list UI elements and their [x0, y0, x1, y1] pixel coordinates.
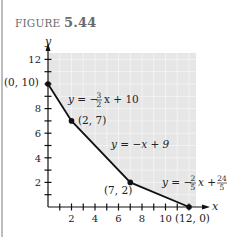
- svg-text:y = −: y = −: [161, 176, 192, 188]
- y-tick-label: 2: [35, 177, 41, 188]
- x-tick-label: 2: [68, 213, 74, 224]
- chart: y x 2 4 6 8 10 2 4 6 8 12 (0, 10) (2, 7)…: [0, 0, 233, 237]
- x-tick-label: 8: [139, 213, 145, 224]
- svg-text:x + 10: x + 10: [104, 93, 139, 105]
- y-tick-label: 12: [28, 54, 41, 65]
- y-axis-label: y: [44, 35, 52, 48]
- svg-text:x +: x +: [198, 176, 216, 188]
- point-label-0-10: (0, 10): [4, 76, 39, 88]
- y-tick-label: 6: [35, 128, 41, 139]
- svg-text:2: 2: [97, 100, 102, 109]
- x-axis-arrow-icon: [202, 205, 210, 210]
- vertex-point: [69, 118, 75, 124]
- x-tick-label: 4: [92, 213, 98, 224]
- svg-text:5: 5: [191, 183, 196, 192]
- equation-segment-2: y = −x + 9: [110, 138, 170, 150]
- point-label-7-2: (7, 2): [104, 184, 132, 196]
- vertex-point: [186, 204, 192, 210]
- svg-text:5: 5: [220, 183, 225, 192]
- y-tick-label: 4: [35, 153, 41, 164]
- point-label-12-0: (12, 0): [175, 212, 210, 224]
- svg-text:3: 3: [97, 91, 102, 100]
- x-tick-label: 10: [159, 213, 172, 224]
- svg-text:24: 24: [217, 174, 227, 183]
- vertex-point: [45, 81, 51, 87]
- y-tick-label: 8: [35, 103, 41, 114]
- svg-text:2: 2: [191, 174, 196, 183]
- svg-text:y = −: y = −: [67, 93, 98, 105]
- point-label-2-7: (2, 7): [78, 114, 106, 126]
- x-axis-label: x: [212, 200, 219, 213]
- x-tick-label: 6: [115, 213, 121, 224]
